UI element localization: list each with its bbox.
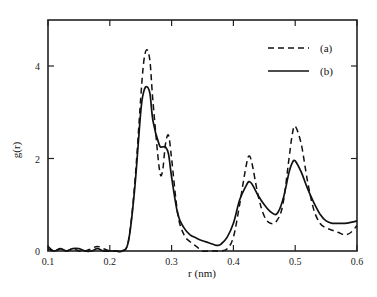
series-a-line: [48, 50, 357, 252]
x-tick-label: 0.4: [227, 256, 240, 267]
legend: (a) (b): [268, 42, 333, 78]
x-axis-label: r (nm): [188, 267, 216, 280]
x-tick-label: 0.1: [42, 256, 55, 267]
y-axis-label: g(r): [10, 141, 23, 158]
plot-area: 0.10.20.30.40.50.6 024: [35, 20, 363, 267]
x-tick-label: 0.3: [165, 256, 178, 267]
rdf-chart: 0.10.20.30.40.50.6 024 r (nm) g(r) (a) (…: [0, 0, 377, 297]
x-tick-label: 0.5: [289, 256, 302, 267]
x-axis-ticks: 0.10.20.30.40.50.6: [42, 20, 364, 267]
x-tick-label: 0.6: [351, 256, 364, 267]
x-tick-label: 0.2: [104, 256, 117, 267]
y-tick-label: 0: [35, 246, 40, 257]
legend-label-a: (a): [320, 42, 333, 55]
y-tick-label: 2: [35, 154, 40, 165]
plot-frame: [48, 20, 357, 251]
series-lines: [48, 50, 357, 252]
y-tick-label: 4: [35, 61, 40, 72]
series-b-line: [48, 87, 357, 252]
legend-label-b: (b): [320, 65, 333, 78]
y-axis-ticks: 024: [35, 61, 357, 257]
